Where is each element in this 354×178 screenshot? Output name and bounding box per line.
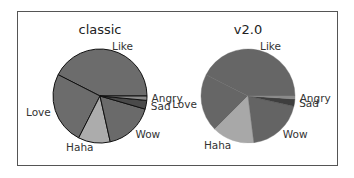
chart-title: classic bbox=[78, 22, 121, 37]
slice-label-haha: Haha bbox=[66, 141, 93, 153]
slice-label-like: Like bbox=[112, 40, 133, 52]
slice-label-like: Like bbox=[260, 40, 281, 52]
pie-v2-0: v2.0LikeLoveHahaWowSadAngry bbox=[172, 22, 331, 151]
pie-charts: classicLikeLoveHahaWowSadAngryv2.0LikeLo… bbox=[0, 0, 354, 178]
slice-label-wow: Wow bbox=[135, 128, 160, 140]
slice-label-haha: Haha bbox=[204, 139, 231, 151]
slice-label-angry: Angry bbox=[300, 92, 331, 104]
slice-label-love: Love bbox=[172, 98, 197, 110]
slice-label-wow: Wow bbox=[283, 128, 308, 140]
chart-title: v2.0 bbox=[234, 22, 262, 37]
slice-label-love: Love bbox=[26, 106, 51, 118]
pie-classic: classicLikeLoveHahaWowSadAngry bbox=[26, 22, 183, 153]
